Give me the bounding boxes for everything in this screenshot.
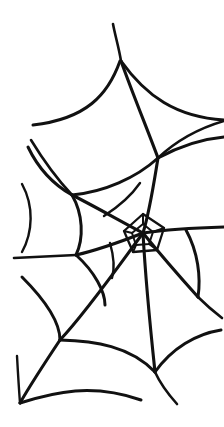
spiral-thread-outer-top-left bbox=[33, 61, 120, 125]
spiral-thread-ring3-left bbox=[72, 195, 81, 255]
radial-spoke-north-upper bbox=[121, 61, 158, 158]
radial-spoke-south bbox=[143, 233, 155, 372]
spiral-thread-outer-top-right bbox=[121, 61, 224, 120]
radial-spoke-west-tip bbox=[14, 255, 76, 258]
radial-spoke-southeast bbox=[143, 233, 198, 297]
spiral-thread-ring4-left-outer bbox=[22, 277, 60, 340]
spiral-thread-bottom-left-tail bbox=[17, 356, 20, 403]
spider-web-drawing bbox=[0, 0, 224, 427]
spiral-threads-group bbox=[17, 61, 224, 403]
radial-spoke-north-tip bbox=[113, 24, 121, 61]
spiral-thread-ring2-top bbox=[72, 158, 158, 195]
radial-spoke-northwest-tip bbox=[31, 140, 72, 195]
spiral-thread-ring4-bottom-left bbox=[60, 340, 155, 372]
spiral-thread-ring4-bottom-right bbox=[155, 330, 221, 372]
spiral-thread-left-edge-scallop bbox=[22, 184, 31, 252]
spiral-thread-outer-bottom bbox=[20, 391, 141, 403]
radial-spokes-group bbox=[14, 24, 224, 404]
radial-spoke-south-tip bbox=[155, 372, 177, 404]
spider-web-illustration: Hand-drawn black ink spider web with a s… bbox=[0, 0, 224, 427]
radial-spoke-southeast-tip bbox=[198, 297, 222, 318]
spiral-thread-ring3-lower-left bbox=[76, 255, 105, 305]
spiral-thread-ring2-right bbox=[158, 137, 224, 158]
